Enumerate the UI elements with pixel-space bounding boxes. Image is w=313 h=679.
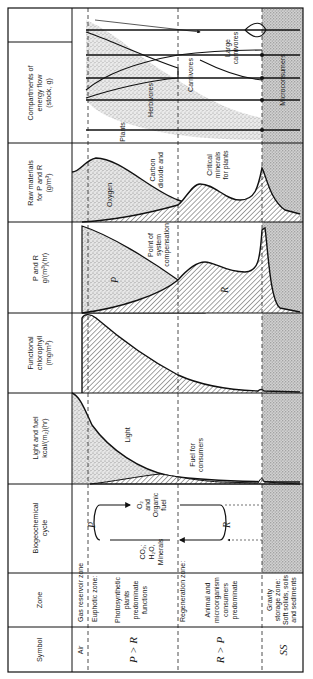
cycle-bottom-1: CO₂; <box>139 544 146 559</box>
header-compartments-3: (stock, g) <box>44 78 53 108</box>
zone-regeneration-1: Animal and <box>204 582 211 617</box>
header-raw-1: Raw materials <box>26 160 35 206</box>
header-zone: Zone <box>35 592 44 608</box>
zone-regeneration-3: consumers <box>222 582 229 617</box>
header-symbol: Symbol <box>35 638 44 662</box>
symbol-ss: SS <box>277 644 289 656</box>
cycle-bottom-2: H₂O, <box>148 544 155 559</box>
symbol-r-gt-p: R > P <box>214 637 226 665</box>
cycle-bottom-3: Minerals <box>157 538 164 565</box>
compensation-3: compensation <box>163 223 171 267</box>
header-light-1: Light and fuel <box>31 416 40 460</box>
header-chlorophyll-1: Functional <box>26 336 35 370</box>
fuel-label-2: consumers <box>197 437 204 472</box>
plants-label: Plants <box>119 122 126 142</box>
oxygen-label: Oxygen <box>106 183 114 207</box>
header-chlorophyll-2: chlorophyll <box>35 335 44 370</box>
microconsumers-label: Microconsumers <box>279 54 286 106</box>
compensation-1: Point of <box>147 233 154 257</box>
minerals-label-3: for plants <box>222 150 230 179</box>
header-pr-1: P and R <box>31 255 40 281</box>
co2-label-2: dioxide and <box>157 152 164 188</box>
zone-ss-2: storage zone: <box>274 579 282 621</box>
herbivores-label: Herbivores <box>147 83 154 117</box>
large-carnivores-label-2: carnivores <box>232 31 239 64</box>
header-compartments-2: energy flow <box>35 74 44 112</box>
light-label: Light <box>124 427 132 442</box>
header-light-2: kcal/(m₂)(hr) <box>40 418 49 458</box>
zone-gas-reservoir: Gas reservoir zone <box>77 563 84 622</box>
pr-label-r: R <box>219 287 230 294</box>
cycle-top-2: and <box>144 499 151 511</box>
co2-label-1: Carbon <box>149 158 156 181</box>
header-compartments-1: Compartments of <box>26 65 35 120</box>
ecosystem-stratification-diagram: Symbol Zone Biogeochemical cycle Light a… <box>0 0 313 679</box>
cycle-top-4: fuel <box>160 499 167 511</box>
zone-ss-1: Gravity <box>266 588 274 611</box>
cycle-top-3: Organic <box>152 492 160 517</box>
zone-ss-3: Soft solids, soils <box>282 574 289 625</box>
zone-euphotic-1: Photosynthetic <box>114 577 122 623</box>
header-raw-2: for P and R <box>35 165 44 201</box>
header-pr-2: g/(m³)(hr) <box>40 253 49 283</box>
symbol-p-gt-r: P > R <box>127 637 139 664</box>
compensation-2: system <box>155 234 163 256</box>
header-biogeochemical-2: cycle <box>40 520 49 536</box>
large-carnivores-label-1: Large <box>224 39 232 57</box>
symbol-air: Air <box>77 645 84 654</box>
header-raw-3: (g/m³) <box>44 173 53 192</box>
cycle-top-1: O₂ <box>136 501 143 509</box>
pr-label-p: P <box>109 277 120 284</box>
minerals-label-2: minerals <box>214 151 221 178</box>
header-biogeochemical-1: Biogeochemical <box>31 502 40 553</box>
zone-euphotic-4: functions <box>141 585 148 614</box>
zone-regeneration-2: microorganism <box>213 577 221 623</box>
carnivores-label: Carnivores <box>187 58 194 92</box>
zone-regeneration-title: Regeneration zone: <box>179 561 187 622</box>
minerals-label-1: Critical <box>206 154 213 176</box>
cycle-p: P <box>86 522 97 529</box>
zone-regeneration-4: predominate <box>231 580 239 619</box>
zone-ss-4: and sediments <box>290 577 297 623</box>
cycle-r: R <box>221 522 232 529</box>
zone-euphotic-title: Euphotic zone: <box>91 576 99 622</box>
header-chlorophyll-3: (mg/m³) <box>44 340 53 365</box>
zone-euphotic-2: plants <box>123 590 131 609</box>
fuel-label-1: Fuel for <box>189 442 196 466</box>
zone-euphotic-3: predominate <box>132 580 140 619</box>
